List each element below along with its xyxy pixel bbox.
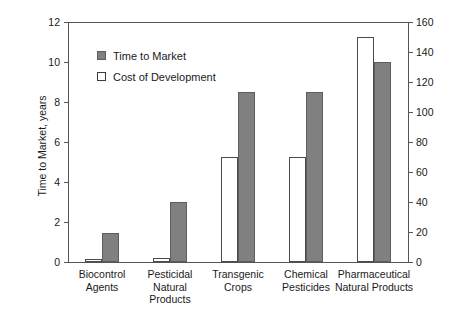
legend-label-cost-of-development: Cost of Development [113, 71, 216, 83]
bar-time-to-market [374, 62, 391, 262]
y-axis-right-tick [409, 172, 413, 173]
y-axis-right-tick [409, 22, 413, 23]
x-axis-category-label: PharmaceuticalNatural Products [324, 268, 424, 293]
bar-cost-of-development [357, 37, 374, 262]
x-axis-category-label-line: Pharmaceutical [324, 268, 424, 281]
y-axis-right-tick-label: 120 [416, 77, 434, 88]
x-axis-line [68, 262, 409, 263]
bar-time-to-market [170, 202, 187, 262]
y-axis-left-tick-label: 0 [34, 257, 60, 268]
bar-cost-of-development [289, 157, 306, 262]
bar-time-to-market [238, 92, 255, 262]
y-axis-right-tick [409, 202, 413, 203]
y-axis-right-tick-label: 60 [416, 167, 428, 178]
y-axis-right-tick-label: 80 [416, 137, 428, 148]
x-axis-category-label-line: Natural Products [324, 281, 424, 294]
y-axis-right-tick-label: 100 [416, 107, 434, 118]
legend-item-time-to-market: Time to Market [97, 47, 216, 64]
y-axis-right-tick [409, 82, 413, 83]
y-axis-right-tick [409, 232, 413, 233]
y-axis-right-tick [409, 52, 413, 53]
y-axis-left-tick [64, 262, 68, 263]
x-axis-category-label-line: Products [120, 293, 220, 306]
y-axis-left-title: Time to Market, years [36, 56, 48, 236]
y-axis-right-tick-label: 40 [416, 197, 428, 208]
bar-cost-of-development [85, 259, 102, 262]
y-axis-right-tick-label: 20 [416, 227, 428, 238]
y-axis-right-tick-label: 0 [416, 257, 422, 268]
y-axis-right-tick [409, 142, 413, 143]
y-axis-right-tick-label: 160 [416, 17, 434, 28]
y-axis-left-tick-label: 12 [34, 17, 60, 28]
legend-swatch-white-icon [97, 72, 106, 81]
legend-label-time-to-market: Time to Market [113, 50, 186, 62]
legend-item-cost-of-development: Cost of Development [97, 68, 216, 85]
bar-cost-of-development [153, 258, 170, 263]
bar-time-to-market [102, 233, 119, 262]
bar-cost-of-development [221, 157, 238, 262]
chart-legend: Time to Market Cost of Development [97, 47, 216, 89]
bar-chart: 024681012 020406080100120140160 Time to … [0, 0, 475, 320]
y-axis-right-tick-label: 140 [416, 47, 434, 58]
y-axis-right-tick [409, 262, 413, 263]
legend-swatch-gray-icon [97, 51, 106, 60]
bar-time-to-market [306, 92, 323, 262]
y-axis-right-tick [409, 112, 413, 113]
